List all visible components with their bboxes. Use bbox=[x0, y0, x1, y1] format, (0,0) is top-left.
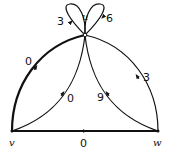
vertex-label-u: u bbox=[82, 11, 88, 22]
vertex-v bbox=[11, 130, 14, 133]
arrow-loop-u-right bbox=[103, 16, 104, 17]
weight-w-u-outer: 3 bbox=[143, 71, 150, 84]
arrow-w-u-outer bbox=[137, 76, 139, 79]
arrow-loop-u-left bbox=[70, 22, 71, 23]
weight-loop-u-right: 6 bbox=[106, 12, 113, 25]
weight-v-u-inner: 0 bbox=[67, 92, 74, 105]
vertex-label-v: v bbox=[9, 137, 15, 148]
weight-w-u-inner: 9 bbox=[97, 91, 104, 104]
vertex-w bbox=[157, 130, 160, 133]
vertex-label-w: w bbox=[153, 137, 162, 148]
edge-v-u-outer bbox=[12, 35, 85, 131]
graph-diagram: u v w 3 6 0 0 9 3 0 bbox=[0, 0, 170, 153]
weight-v-w: 0 bbox=[80, 137, 87, 150]
weight-v-u-outer: 0 bbox=[25, 55, 32, 68]
weight-loop-u-left: 3 bbox=[57, 15, 64, 28]
vertex-u bbox=[83, 33, 87, 37]
